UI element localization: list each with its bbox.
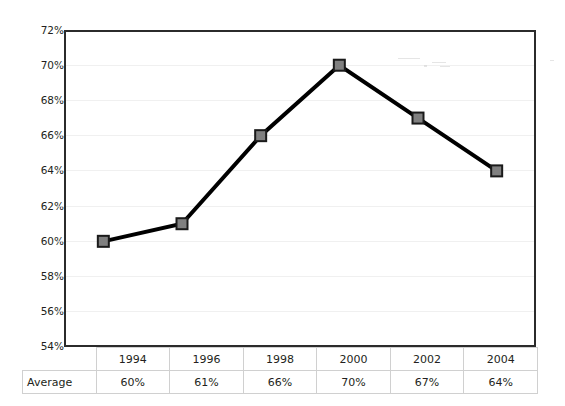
scan-artifact	[424, 65, 427, 67]
chart-container: 72% 70% 68% 66% 64% 62% 60% 58% 56% 54%	[0, 0, 565, 406]
table-corner-blank	[23, 348, 97, 371]
table-cell-2004: 64%	[464, 371, 538, 394]
table-header-row: 1994 1996 1998 2000 2002 2004	[23, 348, 538, 371]
scan-artifact	[550, 60, 554, 61]
gridline-60	[66, 241, 534, 242]
scan-artifact	[440, 66, 450, 67]
table-header-2002: 2002	[390, 348, 464, 371]
plot-area	[64, 30, 536, 347]
table-cell-2000: 70%	[317, 371, 391, 394]
y-tick-mark-62	[56, 206, 63, 207]
table-header-1994: 1994	[96, 348, 170, 371]
y-tick-mark-68	[56, 100, 63, 101]
table-row-average: Average 60% 61% 66% 70% 67% 64%	[23, 371, 538, 394]
table-header-1998: 1998	[243, 348, 317, 371]
table-cell-2002: 67%	[390, 371, 464, 394]
data-table: 1994 1996 1998 2000 2002 2004 Average 60…	[22, 347, 538, 394]
gridline-62	[66, 206, 534, 207]
y-tick-mark-56	[56, 311, 63, 312]
table-header-2000: 2000	[317, 348, 391, 371]
y-tick-label-72: 72%	[32, 25, 64, 36]
y-tick-mark-66	[56, 135, 63, 136]
y-tick-mark-64	[56, 170, 63, 171]
table-header-2004: 2004	[464, 348, 538, 371]
y-tick-mark-70	[56, 65, 63, 66]
gridline-70	[66, 65, 534, 66]
table-cell-1998: 66%	[243, 371, 317, 394]
gridline-58	[66, 276, 534, 277]
table-header-1996: 1996	[170, 348, 244, 371]
y-axis: 72% 70% 68% 66% 64% 62% 60% 58% 56% 54%	[20, 0, 64, 406]
gridline-56	[66, 311, 534, 312]
scan-artifact	[432, 62, 446, 63]
gridline-66	[66, 135, 534, 136]
y-tick-mark-60	[56, 241, 63, 242]
table-cell-1996: 61%	[170, 371, 244, 394]
gridline-64	[66, 170, 534, 171]
table-cell-1994: 60%	[96, 371, 170, 394]
y-tick-mark-58	[56, 276, 63, 277]
scan-artifact	[398, 58, 420, 59]
table-row-label-average: Average	[23, 371, 97, 394]
gridline-68	[66, 100, 534, 101]
